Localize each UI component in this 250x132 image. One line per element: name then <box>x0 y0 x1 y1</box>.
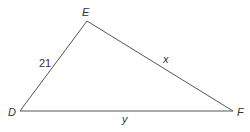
vertex-label-d: D <box>8 106 16 118</box>
side-labels: 21 x y <box>39 53 169 125</box>
side-ef <box>87 21 233 111</box>
triangle-diagram: E D F 21 x y <box>0 0 250 132</box>
vertex-label-e: E <box>82 6 90 18</box>
side-label-de: 21 <box>39 57 51 69</box>
side-label-df: y <box>121 113 129 125</box>
side-label-ef: x <box>162 53 169 65</box>
vertex-label-f: F <box>237 106 245 118</box>
triangle-edges <box>20 21 233 111</box>
side-de <box>20 21 87 111</box>
